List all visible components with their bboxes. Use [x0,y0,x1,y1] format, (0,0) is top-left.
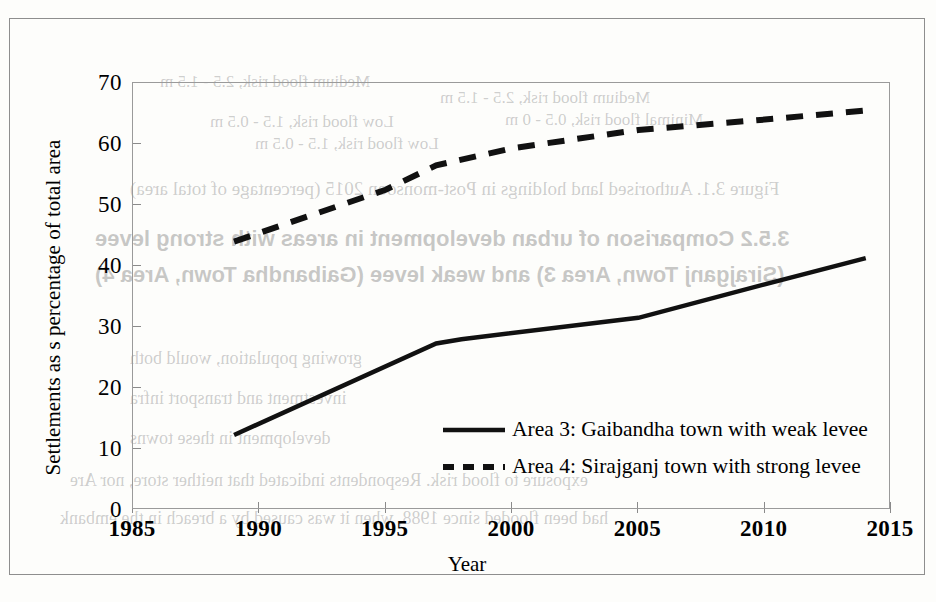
x-tick-label: 1990 [235,516,282,542]
x-tick-label: 1985 [108,516,155,542]
figure-border: Settlements as s percentage of total are… [9,18,925,575]
y-tick-label: 50 [98,193,122,216]
x-axis-title: Year [10,552,924,577]
x-tick-label: 1995 [361,516,408,542]
legend-item: Area 4: Sirajganj town with strong levee [442,448,862,485]
x-tick-label: 2005 [614,516,661,542]
y-tick-label: 60 [98,132,122,155]
y-tick-label: 40 [98,254,122,277]
series-line-1 [234,258,866,435]
y-tick-label: 10 [98,437,122,460]
x-tick-label: 2010 [740,516,787,542]
series-line-2 [234,110,866,241]
x-tick-label: 2000 [487,516,534,542]
y-tick-label: 30 [98,315,122,338]
y-tick-label: 70 [98,71,122,94]
y-tick-label: 20 [98,376,122,399]
legend-label: Area 3: Gaibandha town with weak levee [512,417,868,442]
y-axis-ticks: 010203040506070 [66,82,122,509]
dashed-line-icon [442,461,506,473]
x-tick-label: 2015 [866,516,913,542]
scanned-page: Medium flood risk, 2.5 - 1.5 m Medium fl… [0,0,936,602]
legend-label: Area 4: Sirajganj town with strong levee [512,454,861,479]
solid-line-icon [442,424,506,436]
legend-item: Area 3: Gaibandha town with weak levee [442,411,862,448]
chart-legend: Area 3: Gaibandha town with weak leveeAr… [442,411,862,485]
y-axis-title: Settlements as s percentage of total are… [41,108,66,508]
